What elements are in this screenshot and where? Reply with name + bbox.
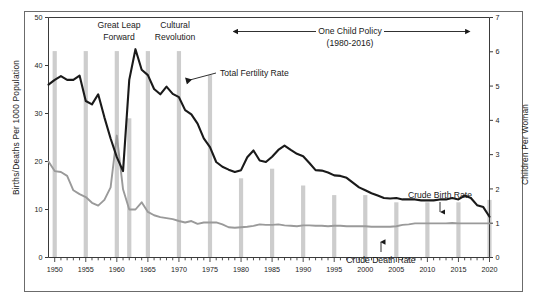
annotation-great-leap-forward-line2: Forward [103, 32, 135, 42]
y-axis-left-title: Births/Deaths Per 1000 Population [11, 60, 21, 195]
x-tick-label: 1985 [264, 265, 280, 274]
interval-bar [177, 51, 181, 257]
interval-bar [239, 178, 243, 257]
x-tick-label: 2020 [482, 265, 498, 274]
interval-bar [425, 202, 429, 257]
x-tick-label: 2015 [450, 265, 466, 274]
x-axis-ticks: 1950195519601965197019751980198519901995… [47, 258, 498, 274]
annotation-great-leap-forward-line1: Great Leap [98, 20, 141, 30]
y2-tick-label: 5 [496, 82, 500, 91]
x-tick-label: 1980 [233, 265, 249, 274]
y2-tick-label: 2 [496, 185, 500, 194]
annotation-cultural-revolution-line2: Revolution [155, 32, 196, 42]
y2-tick-label: 4 [496, 116, 500, 125]
interval-bar [270, 169, 274, 258]
annotation-one-child-policy-line1: One Child Policy [318, 26, 382, 36]
interval-bar [456, 202, 460, 257]
y-tick-label: 20 [35, 157, 43, 166]
y2-tick-label: 1 [496, 219, 500, 228]
x-tick-label: 2000 [357, 265, 373, 274]
annotation-one-child-policy-line2: (1980-2016) [327, 38, 374, 48]
x-tick-label: 1960 [109, 265, 125, 274]
interval-bar [301, 186, 305, 258]
chart-figure: 01020304050 01234567 1950195519601965197… [0, 0, 547, 303]
y2-tick-label: 3 [496, 150, 500, 159]
x-tick-label: 1975 [202, 265, 218, 274]
x-tick-label: 1965 [140, 265, 156, 274]
y-axis-right-title: Children Per Woman [520, 104, 530, 185]
chart-canvas: 01020304050 01234567 1950195519601965197… [0, 0, 547, 303]
interval-bar [84, 51, 88, 257]
x-tick-label: 1995 [326, 265, 342, 274]
interval-bar [394, 202, 398, 257]
x-tick-label: 1950 [47, 265, 63, 274]
annotation-crude-birth-rate: Crude Birth Rate [408, 190, 472, 200]
interval-bar [208, 75, 212, 257]
y-axis-left-ticks: 01020304050 [35, 13, 49, 262]
annotation-crude-death-rate: Crude Death Rate [346, 255, 415, 265]
y-tick-label: 50 [35, 13, 43, 22]
y-tick-label: 10 [35, 205, 43, 214]
y-tick-label: 40 [35, 61, 43, 70]
x-tick-label: 2010 [419, 265, 435, 274]
y2-tick-label: 6 [496, 47, 500, 56]
x-tick-label: 1970 [171, 265, 187, 274]
x-tick-label: 2005 [388, 265, 404, 274]
y2-tick-label: 0 [496, 253, 500, 262]
y-tick-label: 30 [35, 109, 43, 118]
y-tick-label: 0 [39, 253, 43, 262]
annotation-total-fertility-rate: Total Fertility Rate [220, 68, 289, 78]
x-tick-label: 1990 [295, 265, 311, 274]
interval-bar [127, 118, 131, 257]
x-tick-label: 1955 [78, 265, 94, 274]
y2-tick-label: 7 [496, 13, 500, 22]
interval-bar [146, 51, 150, 257]
annotation-cultural-revolution-line1: Cultural [160, 20, 190, 30]
